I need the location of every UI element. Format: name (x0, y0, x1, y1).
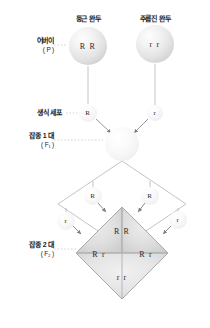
f1-gamete-top-left-allele: R (90, 192, 95, 200)
punnett-square (76, 207, 168, 299)
label-f2-text: 잡종 2 대 (0, 240, 54, 249)
gamete-parent-R-allele: R (85, 109, 90, 117)
label-f1-generation: 잡종 1 대 ( F₁ ) (0, 131, 54, 149)
arrow-gamete-l-to-square (73, 226, 81, 234)
punnett-genotype-bottom: r r (117, 273, 128, 282)
f1-gamete-top-left: R (84, 187, 102, 205)
genetics-diagram: 둥근 완두 주름진 완두 어버이 ( P ) 생식 세포 잡종 1 대 ( F₁… (0, 0, 210, 328)
label-round-pea: 둥근 완두 (76, 14, 101, 23)
arrow-gamete-r-to-f1 (134, 119, 148, 133)
punnett-genotype-right: R r (139, 250, 152, 259)
label-parent-generation: 어버이 ( P ) (0, 36, 54, 54)
label-f2-generation: 잡종 2 대 ( F₂ ) (0, 240, 54, 258)
f1-gamete-left-allele: r (65, 217, 68, 225)
punnett-genotype-top: R R (114, 227, 130, 236)
arrow-gamete-R-to-f1 (96, 119, 111, 133)
arrow-gamete-tl-to-square (98, 203, 106, 212)
parent-round-genotype: R R (80, 42, 96, 51)
gamete-parent-r-allele: r (154, 109, 157, 117)
gamete-parent-r: r (147, 105, 163, 121)
arrow-gamete-tr-to-square (138, 203, 145, 212)
f1-individual (105, 127, 139, 161)
parent-wrinkled-genotype: r r (150, 40, 161, 49)
arrow-gamete-r-to-square (163, 226, 171, 234)
label-parent-text: 어버이 (0, 36, 54, 45)
f1-gamete-right-allele: r (177, 216, 180, 224)
label-wrinkled-pea: 주름진 완두 (140, 14, 171, 23)
parent-round-pea: R R (69, 27, 107, 65)
gamete-parent-R: R (79, 104, 97, 122)
parent-wrinkled-pea: r r (136, 25, 174, 63)
label-gamete-text: 생식 세포 (0, 108, 62, 117)
f1-gamete-left: r (57, 212, 75, 230)
f1-gamete-top-right-allele: R (147, 192, 152, 200)
label-parent-symbol: ( P ) (0, 45, 54, 54)
label-f2-symbol: ( F₂ ) (0, 249, 54, 258)
f1-gamete-top-right: R (141, 187, 159, 205)
label-f1-symbol: ( F₁ ) (0, 140, 54, 149)
f1-gamete-right: r (169, 211, 187, 229)
label-gamete: 생식 세포 (0, 108, 62, 117)
punnett-genotype-left: R r (92, 250, 105, 259)
label-f1-text: 잡종 1 대 (0, 131, 54, 140)
